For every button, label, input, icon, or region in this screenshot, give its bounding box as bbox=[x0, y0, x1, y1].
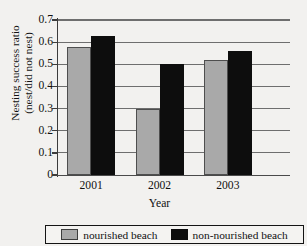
y-tick-label: 0.6 bbox=[23, 36, 53, 48]
y-tick-label: 0.4 bbox=[23, 81, 53, 93]
bar-chart-figure: Nesting success ratio (nest/did not nest… bbox=[0, 0, 307, 246]
x-tick-label: 2001 bbox=[61, 179, 121, 192]
y-tick-label: 0.3 bbox=[23, 103, 53, 115]
bar-nourished-beach-2002 bbox=[136, 109, 160, 175]
x-axis-line bbox=[57, 175, 290, 176]
y-tick-label: 0.2 bbox=[23, 125, 53, 137]
legend-entry-nourished: nourished beach bbox=[61, 229, 157, 241]
bar-non-nourished-beach-2003 bbox=[228, 51, 252, 175]
y-axis-tick-labels: 0.70.60.50.40.30.20.10 bbox=[21, 0, 53, 246]
y-tick-label: 0 bbox=[23, 169, 53, 181]
x-tick-label: 2003 bbox=[198, 179, 258, 192]
legend-swatch-non-nourished bbox=[171, 229, 188, 240]
legend-label-nourished: nourished beach bbox=[83, 229, 157, 241]
legend-label-non-nourished: non-nourished beach bbox=[193, 229, 288, 241]
x-tick-label: 2002 bbox=[130, 179, 190, 192]
legend-swatch-nourished bbox=[61, 229, 78, 240]
bar-nourished-beach-2003 bbox=[204, 60, 228, 175]
bar-non-nourished-beach-2002 bbox=[160, 64, 184, 175]
y-tick-label: 0.5 bbox=[23, 58, 53, 70]
x-axis-title: Year bbox=[57, 197, 262, 210]
bar-non-nourished-beach-2001 bbox=[91, 36, 115, 176]
plot-area bbox=[57, 20, 262, 175]
y-tick-label: 0.7 bbox=[23, 14, 53, 26]
chart-legend: nourished beach non-nourished beach bbox=[45, 225, 304, 244]
legend-entry-non-nourished: non-nourished beach bbox=[171, 229, 288, 241]
bar-nourished-beach-2001 bbox=[67, 47, 91, 175]
y-tick-label: 0.1 bbox=[23, 147, 53, 159]
